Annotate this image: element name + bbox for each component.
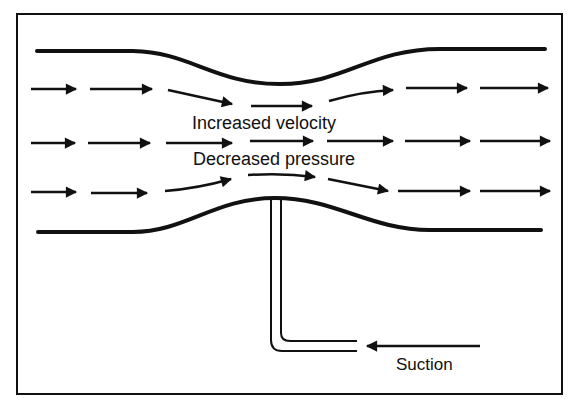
venturi-diagram bbox=[0, 0, 578, 407]
increased-velocity-label: Increased velocity bbox=[192, 114, 336, 132]
suction-tube bbox=[271, 197, 357, 351]
suction-label: Suction bbox=[396, 356, 453, 373]
decreased-pressure-label: Decreased pressure bbox=[193, 150, 355, 168]
top-wall bbox=[37, 49, 545, 84]
frame-border bbox=[17, 14, 562, 394]
bottom-wall bbox=[38, 198, 541, 232]
upper-streamline bbox=[31, 88, 548, 106]
lower-streamline bbox=[31, 174, 550, 193]
middle-streamline bbox=[31, 141, 550, 143]
